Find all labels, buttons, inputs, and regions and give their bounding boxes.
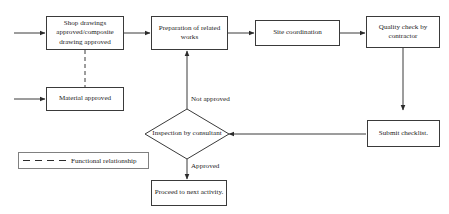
node-shop-drawings[interactable]: Shop drawings approved/composite drawing… [46, 16, 124, 50]
legend-functional-relationship: Functional relationship [18, 152, 149, 169]
node-material-approved-label: Material approved [59, 94, 111, 103]
node-submit-checklist[interactable]: Submit checklist. [367, 120, 440, 147]
node-shop-drawings-label: Shop drawings approved/composite drawing… [49, 19, 121, 46]
node-quality-check[interactable]: Quality check by contractor [366, 16, 440, 48]
node-site-coordination-label: Site coordination [273, 28, 322, 37]
edge-label-not-approved: Not approved [191, 96, 230, 103]
node-inspection-label: Inspection by consultant [145, 109, 229, 159]
legend-label: Functional relationship [71, 157, 137, 165]
node-material-approved[interactable]: Material approved [46, 87, 124, 111]
legend-dashed-line-icon [23, 160, 67, 161]
edge-label-approved: Approved [191, 163, 219, 170]
node-inspection-by-consultant[interactable]: Inspection by consultant [145, 109, 229, 159]
node-site-coordination[interactable]: Site coordination [255, 20, 340, 46]
node-submit-checklist-label: Submit checklist. [379, 129, 428, 138]
node-proceed-label: Proceed to next activity. [155, 188, 224, 197]
node-preparation-label: Preparation of related works [154, 24, 225, 42]
node-quality-check-label: Quality check by contractor [369, 23, 437, 41]
node-preparation[interactable]: Preparation of related works [151, 16, 228, 50]
node-proceed-to-next-activity[interactable]: Proceed to next activity. [151, 180, 227, 206]
flowchart-diagram: Shop drawings approved/composite drawing… [0, 0, 449, 214]
